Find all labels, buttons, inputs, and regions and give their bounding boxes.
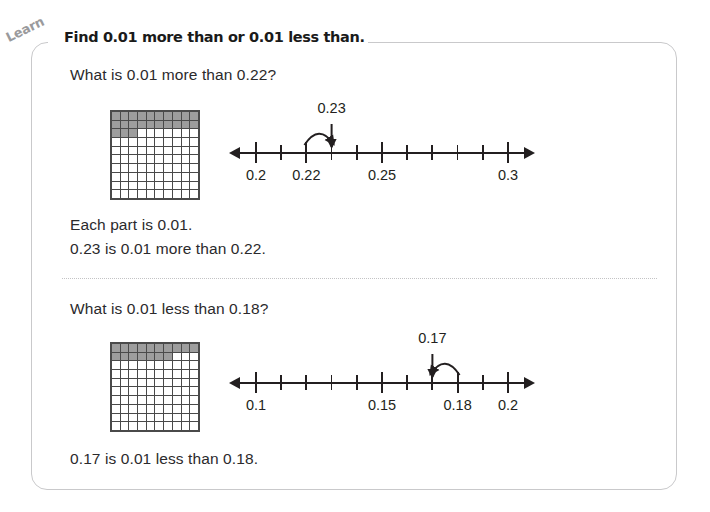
grid-cell-empty [190,370,198,378]
grid-cell-empty [121,155,129,163]
grid-cell-shaded [112,129,120,137]
grid-cell-empty [147,405,155,413]
grid-cell-empty [173,361,181,369]
grid-cell-empty [182,173,190,181]
section-divider [62,278,657,279]
grid-cell-shaded [147,112,155,120]
grid-cell-empty [138,396,146,404]
grid-cell-empty [138,361,146,369]
grid-cell-empty [129,387,137,395]
grid-cell-empty [138,379,146,387]
grid-cell-empty [155,182,163,190]
grid-cell-empty [138,414,146,422]
grid-cell-empty [147,164,155,172]
grid-cell-empty [129,405,137,413]
grid-cell-empty [155,414,163,422]
grid-cell-empty [112,155,120,163]
grid-cell-empty [182,138,190,146]
grid-cell-empty [190,379,198,387]
grid-cell-empty [190,155,198,163]
grid-cell-empty [155,396,163,404]
grid-cell-empty [147,173,155,181]
grid-cell-shaded [190,344,198,352]
statement-1a: Each part is 0.01. [70,216,192,234]
grid-cell-empty [164,164,172,172]
statement-2a: 0.17 is 0.01 less than 0.18. [70,450,258,468]
grid-cell-shaded [138,344,146,352]
learn-badge: Learn [8,24,70,54]
statement-1b: 0.23 is 0.01 more than 0.22. [70,240,266,258]
grid-cell-shaded [112,344,120,352]
grid-cell-empty [112,396,120,404]
grid-cell-empty [173,379,181,387]
grid-cell-shaded [138,112,146,120]
grid-cell-empty [147,147,155,155]
grid-cell-shaded [155,344,163,352]
grid-cell-empty [182,414,190,422]
grid-cell-empty [112,138,120,146]
grid-cell-empty [173,129,181,137]
number-line-label: 0.2 [498,397,518,413]
grid-cell-empty [190,138,198,146]
grid-cell-empty [182,182,190,190]
question-2: What is 0.01 less than 0.18? [70,300,268,318]
grid-cell-shaded [129,344,137,352]
grid-cell-empty [129,138,137,146]
grid-cell-empty [182,353,190,361]
grid-cell-shaded [112,112,120,120]
grid-cell-empty [164,405,172,413]
grid-cell-empty [155,173,163,181]
grid-cell-empty [121,361,129,369]
grid-cell-empty [190,164,198,172]
grid-cell-empty [190,147,198,155]
page-title: Find 0.01 more than or 0.01 less than. [64,29,365,45]
grid-cell-empty [138,190,146,198]
hundredths-grid-2 [110,342,200,432]
grid-cell-shaded [164,121,172,129]
grid-cell-empty [129,370,137,378]
grid-cell-empty [164,129,172,137]
grid-cell-empty [138,387,146,395]
grid-cell-shaded [129,112,137,120]
worksheet-page: Learn Find 0.01 more than or 0.01 less t… [0,0,710,512]
grid-cell-empty [190,173,198,181]
grid-cell-empty [182,379,190,387]
callout-curved-arrow-icon [430,364,459,375]
grid-cell-empty [129,190,137,198]
grid-cell-empty [155,147,163,155]
number-line-label: 0.2 [246,167,266,183]
grid-cell-empty [129,182,137,190]
grid-cell-empty [182,155,190,163]
grid-cell-empty [129,147,137,155]
grid-cell-empty [138,164,146,172]
grid-cell-shaded [182,344,190,352]
grid-cell-empty [147,129,155,137]
number-line-label: 0.18 [443,397,471,413]
grid-cell-empty [182,370,190,378]
grid-cell-empty [164,370,172,378]
grid-cell-shaded [155,353,163,361]
grid-cell-empty [155,361,163,369]
grid-cell-empty [164,155,172,163]
grid-cell-empty [138,182,146,190]
grid-cell-empty [129,173,137,181]
grid-cell-empty [138,155,146,163]
grid-cell-shaded [129,129,137,137]
grid-cell-empty [112,422,120,430]
grid-cell-shaded [129,353,137,361]
grid-cell-empty [164,138,172,146]
grid-cell-empty [173,147,181,155]
grid-cell-empty [112,173,120,181]
grid-cell-empty [164,414,172,422]
grid-cell-empty [155,138,163,146]
grid-cell-empty [182,387,190,395]
grid-cell-empty [164,379,172,387]
grid-cell-empty [182,405,190,413]
grid-cell-shaded [121,121,129,129]
grid-cell-empty [138,405,146,413]
grid-cell-empty [190,396,198,404]
grid-cell-empty [190,190,198,198]
grid-cell-empty [147,155,155,163]
grid-cell-empty [147,387,155,395]
grid-cell-empty [147,370,155,378]
